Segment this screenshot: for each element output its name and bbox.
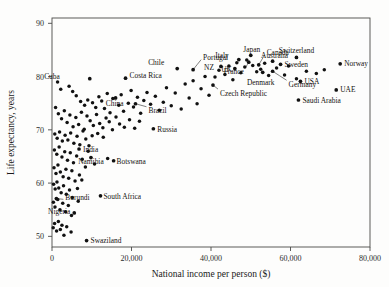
data-point xyxy=(231,78,235,82)
data-point xyxy=(55,137,59,141)
point-label-sweden: Sweden xyxy=(285,60,309,69)
point-label-burundi: Burundi xyxy=(65,193,89,202)
data-point xyxy=(64,167,68,171)
data-point xyxy=(51,226,55,230)
data-point xyxy=(95,113,99,117)
data-point-labeled xyxy=(237,58,241,62)
data-point xyxy=(187,96,191,100)
data-point-labeled xyxy=(211,83,215,87)
data-point xyxy=(56,163,60,167)
data-point xyxy=(107,120,111,124)
data-point xyxy=(72,141,76,145)
data-point xyxy=(68,188,72,192)
data-point xyxy=(80,178,84,182)
data-point xyxy=(207,93,211,97)
data-point xyxy=(108,111,112,115)
data-point xyxy=(61,175,65,179)
point-label-nigeria: Nigeria xyxy=(48,207,71,216)
data-point xyxy=(52,182,56,186)
data-point xyxy=(67,84,71,88)
data-point-labeled xyxy=(338,62,342,66)
data-point xyxy=(195,102,199,106)
data-point-labeled xyxy=(99,194,103,198)
data-point xyxy=(170,104,174,108)
data-point-labeled xyxy=(299,80,303,84)
data-point xyxy=(203,75,207,79)
data-point xyxy=(60,155,64,159)
data-point xyxy=(62,234,66,238)
y-tick-label: 50 xyxy=(36,232,44,241)
data-point xyxy=(76,187,80,191)
data-point-labeled xyxy=(124,76,128,80)
data-point-labeled xyxy=(152,127,156,131)
data-point xyxy=(57,220,61,224)
data-point xyxy=(154,95,158,99)
data-point xyxy=(83,104,87,108)
point-label-saudi-arabia: Saudi Arabia xyxy=(302,96,341,105)
x-tick-label: 40,000 xyxy=(200,254,222,263)
data-point-labeled xyxy=(279,62,283,66)
data-point xyxy=(199,87,203,91)
data-point xyxy=(315,72,319,76)
data-point xyxy=(67,177,71,181)
data-point xyxy=(79,100,83,104)
point-label-norway: Norway xyxy=(344,59,368,68)
y-tick-label: 60 xyxy=(36,179,44,188)
data-point xyxy=(57,145,61,149)
data-point xyxy=(305,70,309,74)
data-point xyxy=(72,161,76,165)
data-point xyxy=(97,95,101,99)
data-point xyxy=(173,91,177,95)
data-point xyxy=(53,132,57,136)
point-label-botswana: Botswana xyxy=(117,157,147,166)
x-tick-label: 60,000 xyxy=(280,254,302,263)
data-point xyxy=(122,109,126,113)
data-point xyxy=(263,62,267,66)
data-point xyxy=(69,151,73,155)
point-label-south-africa: South Africa xyxy=(103,192,141,201)
data-point-labeled xyxy=(72,211,76,215)
y-tick-label: 80 xyxy=(36,73,44,82)
data-point xyxy=(101,126,105,129)
data-point-labeled xyxy=(297,98,301,102)
data-point xyxy=(58,130,62,134)
data-point xyxy=(179,107,183,111)
point-label-uae: UAE xyxy=(340,85,356,94)
x-tick-label: 80,000 xyxy=(359,254,381,263)
data-point xyxy=(119,93,123,97)
data-point xyxy=(88,119,92,123)
data-point xyxy=(106,92,110,96)
data-point xyxy=(60,117,64,121)
data-point xyxy=(63,109,67,113)
data-point xyxy=(102,136,106,140)
data-point-labeled xyxy=(261,70,265,74)
data-point xyxy=(128,118,132,122)
data-point xyxy=(85,114,89,118)
x-tick-label: 20,000 xyxy=(121,254,143,263)
data-point xyxy=(59,88,63,92)
data-point xyxy=(66,138,70,142)
data-point-labeled xyxy=(191,68,195,72)
data-point xyxy=(59,191,63,195)
data-point xyxy=(138,120,142,124)
data-point-labeled xyxy=(247,60,251,64)
data-point xyxy=(323,68,327,72)
data-point xyxy=(165,86,169,90)
point-label-costa-rica: Costa Rica xyxy=(130,71,163,80)
scatter-plot-svg: 020,00040,00060,00080,0005060708090Natio… xyxy=(0,0,389,287)
data-point xyxy=(71,90,75,94)
data-point xyxy=(55,229,59,233)
data-point xyxy=(162,100,166,104)
data-point xyxy=(94,106,98,110)
point-label-china: China xyxy=(106,99,124,108)
data-point xyxy=(123,125,127,128)
data-point-labeled xyxy=(249,53,253,57)
data-point xyxy=(132,105,136,109)
data-point xyxy=(59,228,63,232)
data-point xyxy=(73,179,77,183)
data-point xyxy=(70,169,74,173)
data-point xyxy=(74,94,78,98)
data-point xyxy=(54,172,58,176)
data-point xyxy=(52,166,56,170)
point-label-cuba: Cuba xyxy=(44,72,60,81)
